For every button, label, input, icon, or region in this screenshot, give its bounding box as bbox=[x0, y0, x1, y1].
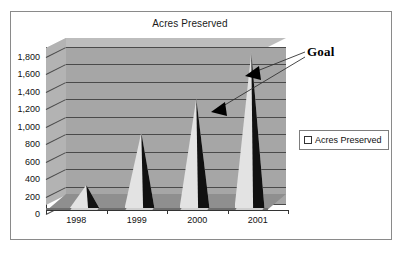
x-axis-tick bbox=[288, 210, 289, 214]
x-axis-tick bbox=[167, 210, 168, 214]
x-axis-label: 1999 bbox=[114, 215, 160, 225]
chart-legend: Acres Preserved bbox=[299, 130, 389, 150]
cone-bar bbox=[70, 185, 100, 209]
y-axis-label: 600 bbox=[10, 158, 40, 167]
y-axis-label: 1,200 bbox=[10, 105, 40, 114]
chart-screenshot: Acres Preserved 1,8001,6001,4001,2001,00… bbox=[0, 0, 406, 254]
x-axis-tick bbox=[46, 210, 47, 214]
y-axis-label: 1,400 bbox=[10, 88, 40, 97]
goal-annotation-label: Goal bbox=[307, 44, 335, 60]
legend-item-label: Acres Preserved bbox=[315, 135, 382, 145]
x-axis-label: 2000 bbox=[174, 215, 220, 225]
x-axis-tick bbox=[107, 210, 108, 214]
x-axis-label: 2001 bbox=[235, 215, 281, 225]
y-axis-label: 1,800 bbox=[10, 53, 40, 62]
x-axis-label: 1998 bbox=[53, 215, 99, 225]
y-axis-label: 800 bbox=[10, 140, 40, 149]
chart-title: Acres Preserved bbox=[95, 18, 285, 32]
y-axis-label: 0 bbox=[10, 210, 40, 219]
gridline bbox=[66, 47, 286, 48]
cone-bar bbox=[180, 99, 210, 209]
y-axis-label: 1,000 bbox=[10, 123, 40, 132]
cone-bar bbox=[125, 133, 155, 209]
y-axis-label: 200 bbox=[10, 193, 40, 202]
y-axis-label: 400 bbox=[10, 175, 40, 184]
y-axis-label: 1,600 bbox=[10, 70, 40, 79]
y-axis: 1,8001,6001,4001,2001,0008006004002000 bbox=[8, 38, 40, 218]
square-marker-icon bbox=[304, 136, 312, 144]
x-axis-tick bbox=[228, 210, 229, 214]
plot-area bbox=[46, 38, 296, 210]
cone-bar bbox=[235, 52, 265, 208]
